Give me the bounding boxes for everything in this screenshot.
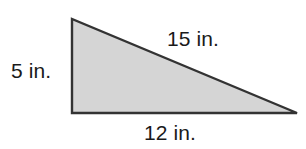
label-vertical-leg: 5 in. <box>11 60 51 81</box>
figure-canvas: 5 in. 15 in. 12 in. <box>0 0 306 149</box>
label-hypotenuse: 15 in. <box>167 28 219 49</box>
label-horizontal-leg: 12 in. <box>144 122 196 143</box>
